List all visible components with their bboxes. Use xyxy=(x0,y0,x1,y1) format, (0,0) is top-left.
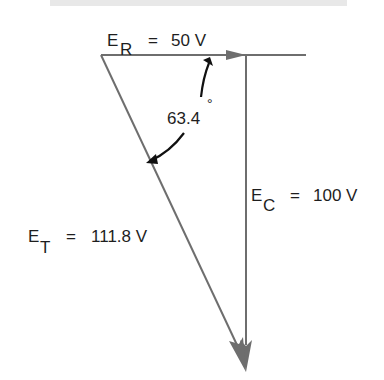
svg-text:E: E xyxy=(28,227,39,246)
svg-text:C: C xyxy=(263,196,275,215)
svg-text:50 V: 50 V xyxy=(171,31,207,50)
svg-text:=: = xyxy=(66,227,76,246)
et-label: E T = 111.8 V xyxy=(28,227,148,257)
et-vector xyxy=(101,55,246,372)
er-arrowhead-icon xyxy=(226,50,246,60)
svg-text:=: = xyxy=(148,31,158,50)
svg-text:111.8 V: 111.8 V xyxy=(91,227,148,246)
svg-text:T: T xyxy=(40,238,50,257)
phasor-diagram: E R = 50 V 63.4 ° E C = 100 V E T = 111.… xyxy=(0,0,384,380)
svg-text:63.4: 63.4 xyxy=(167,109,200,128)
ec-vector xyxy=(240,55,252,372)
svg-text:R: R xyxy=(120,40,132,59)
svg-text:°: ° xyxy=(207,96,213,112)
svg-text:E: E xyxy=(251,186,262,205)
ec-label: E C = 100 V xyxy=(251,186,358,215)
svg-text:=: = xyxy=(290,186,300,205)
angle-arrow-up-icon xyxy=(201,63,209,97)
svg-text:100 V: 100 V xyxy=(313,186,358,205)
et-arrowhead-icon xyxy=(229,337,246,372)
angle-label: 63.4 ° xyxy=(167,96,213,128)
svg-text:E: E xyxy=(107,31,118,50)
